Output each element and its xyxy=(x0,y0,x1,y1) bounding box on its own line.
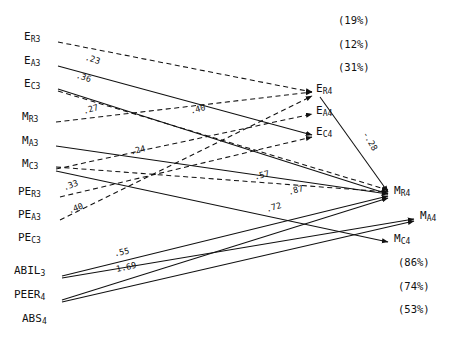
node-label-PER3: PER3 xyxy=(18,185,41,199)
path-diagram-canvas: E_R4 --> E_C4 --> M_R4 --> E_R4 --> M_R4… xyxy=(0,0,458,344)
path-EA3-to-EC4 xyxy=(58,66,312,135)
node-base: PE xyxy=(18,231,31,244)
node-label-MC4: MC4 xyxy=(394,232,410,246)
node-base: PEER xyxy=(14,288,41,301)
node-label-MR3: MR3 xyxy=(22,110,38,124)
node-sub: A3 xyxy=(31,213,41,222)
node-label-ER3: ER3 xyxy=(24,30,40,44)
node-label-PEER4: PEER4 xyxy=(14,288,45,302)
node-label-MA3: MA3 xyxy=(22,134,38,148)
path-PEA3-to-MR4 xyxy=(56,167,388,192)
node-base: M xyxy=(22,110,29,123)
path-diagram-svg: E_R4 --> E_C4 --> M_R4 --> E_R4 --> M_R4… xyxy=(0,0,458,344)
node-sub: A4 xyxy=(323,109,333,118)
node-label-EC3: EC3 xyxy=(24,77,40,91)
node-base: PE xyxy=(18,208,31,221)
variance-label-86: (86%) xyxy=(398,256,430,268)
node-sub: C3 xyxy=(31,82,41,91)
node-base: M xyxy=(22,157,29,170)
node-label-MA4: MA4 xyxy=(420,209,436,223)
path-EC3-to-MR4 xyxy=(58,89,388,194)
node-sub: R3 xyxy=(31,35,41,44)
node-label-ABIL3: ABIL3 xyxy=(14,264,45,278)
node-base: E xyxy=(24,30,31,43)
node-base: ABIL xyxy=(14,264,41,277)
node-label-EA4: EA4 xyxy=(316,104,332,118)
node-label-EA3: EA3 xyxy=(24,54,40,68)
node-label-ER4: ER4 xyxy=(316,82,332,96)
path-MC3-to-EA4 xyxy=(56,114,312,169)
node-sub: 3 xyxy=(41,269,46,278)
variance-label-53: (53%) xyxy=(398,303,430,315)
node-sub: C4 xyxy=(401,237,411,246)
node-label-MC3: MC3 xyxy=(22,157,38,171)
path-ER3-to-ER4 xyxy=(58,42,312,92)
node-base: ABS xyxy=(22,312,42,325)
node-sub: R3 xyxy=(31,190,41,199)
node-sub: A4 xyxy=(427,214,437,223)
node-label-PEC3: PEC3 xyxy=(18,231,41,245)
node-base: M xyxy=(420,209,427,222)
node-sub: R4 xyxy=(323,87,333,96)
node-base: E xyxy=(316,82,323,95)
path-PER3-to-EC4 xyxy=(60,137,312,197)
node-base: E xyxy=(24,77,31,90)
variance-label-19: (19%) xyxy=(338,14,370,26)
node-sub: R3 xyxy=(29,115,39,124)
node-label-EC4: EC4 xyxy=(316,125,332,139)
node-label-MR4: MR4 xyxy=(394,184,410,198)
variance-label-74: (74%) xyxy=(398,280,430,292)
node-base: M xyxy=(22,134,29,147)
node-sub: A3 xyxy=(29,139,39,148)
path-PEER4-to-MR4 xyxy=(62,198,388,300)
node-label-PEA3: PEA3 xyxy=(18,208,41,222)
node-sub: C3 xyxy=(29,162,39,171)
node-sub: 4 xyxy=(42,317,47,326)
node-base: E xyxy=(24,54,31,67)
node-sub: C3 xyxy=(31,236,41,245)
node-base: PE xyxy=(18,185,31,198)
node-base: M xyxy=(394,184,401,197)
node-label-ABS4: ABS4 xyxy=(22,312,47,326)
variance-label-31: (31%) xyxy=(338,61,370,73)
node-base: E xyxy=(316,104,323,117)
node-base: E xyxy=(316,125,323,138)
path-mid-dashed-to-MR4 xyxy=(58,91,388,190)
path-MA3-to-MR4 xyxy=(56,146,388,194)
node-sub: R4 xyxy=(401,189,411,198)
node-sub: 4 xyxy=(41,293,46,302)
path-lines-group: E_R4 --> E_C4 --> M_R4 --> E_R4 --> M_R4… xyxy=(56,42,414,302)
node-sub: A3 xyxy=(31,59,41,68)
variance-label-12: (12%) xyxy=(338,38,370,50)
node-base: M xyxy=(394,232,401,245)
node-sub: C4 xyxy=(323,130,333,139)
